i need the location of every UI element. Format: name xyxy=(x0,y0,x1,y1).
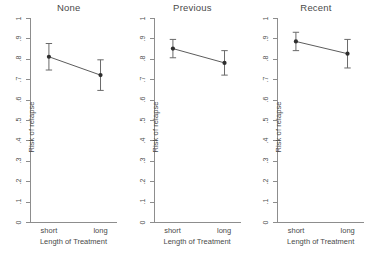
y-axis-tick-label: .2 xyxy=(262,174,269,188)
y-axis-tick-label: .5 xyxy=(262,113,269,127)
y-axis-tick-label: .8 xyxy=(138,52,145,66)
chart-panel: None0.1.2.3.4.5.6.7.8.91shortlongLength … xyxy=(0,0,124,253)
y-axis-tick-label: .3 xyxy=(15,154,22,168)
x-axis-label: Length of Treatment xyxy=(30,237,117,246)
y-axis-tick-label: .1 xyxy=(15,195,22,209)
y-axis-tick-label: .9 xyxy=(262,31,269,45)
y-axis-tick-label: 0 xyxy=(262,215,269,229)
x-axis-line xyxy=(277,222,364,223)
x-axis-label: Length of Treatment xyxy=(154,237,241,246)
y-axis-tick-label: .7 xyxy=(15,72,22,86)
y-axis-tick-label: 1 xyxy=(262,11,269,25)
y-axis-tick-label: .1 xyxy=(138,195,145,209)
connector-line xyxy=(49,57,101,75)
x-axis-label: Length of Treatment xyxy=(277,237,364,246)
y-axis-tick-label: .4 xyxy=(15,133,22,147)
y-axis-tick-label: .8 xyxy=(262,52,269,66)
series-graphic xyxy=(154,18,240,222)
y-axis-tick-label: .4 xyxy=(138,133,145,147)
data-point-marker xyxy=(47,55,51,59)
data-point-marker xyxy=(346,52,350,56)
x-axis-tick-label: short xyxy=(288,226,305,235)
plot-area: 0.1.2.3.4.5.6.7.8.91 xyxy=(154,18,240,222)
plot-area: 0.1.2.3.4.5.6.7.8.91 xyxy=(30,18,116,222)
data-point-marker xyxy=(98,73,102,77)
y-axis-tick xyxy=(26,222,30,223)
y-axis-tick-label: .5 xyxy=(15,113,22,127)
y-axis-tick-label: .7 xyxy=(138,72,145,86)
y-axis-tick-label: 0 xyxy=(15,215,22,229)
connector-line xyxy=(173,49,225,63)
y-axis-tick-label: .2 xyxy=(15,174,22,188)
plot-area: 0.1.2.3.4.5.6.7.8.91 xyxy=(277,18,363,222)
y-axis-tick-label: .8 xyxy=(15,52,22,66)
y-axis-tick-label: .9 xyxy=(138,31,145,45)
chart-panel: Recent0.1.2.3.4.5.6.7.8.91shortlongLengt… xyxy=(247,0,371,253)
y-axis-tick-label: .9 xyxy=(15,31,22,45)
x-axis-tick-label: long xyxy=(93,226,107,235)
x-axis-tick-label: long xyxy=(217,226,231,235)
y-axis-label: Risk of relapse xyxy=(151,101,160,152)
x-axis-tick-label: short xyxy=(164,226,181,235)
y-axis-tick-label: 1 xyxy=(138,11,145,25)
figure-panel-group: None0.1.2.3.4.5.6.7.8.91shortlongLength … xyxy=(0,0,371,253)
series-graphic xyxy=(30,18,116,222)
chart-panel: Previous0.1.2.3.4.5.6.7.8.91shortlongLen… xyxy=(124,0,248,253)
y-axis-tick xyxy=(150,222,154,223)
y-axis-tick-label: .6 xyxy=(262,93,269,107)
y-axis-tick-label: .4 xyxy=(262,133,269,147)
y-axis-label: Risk of relapse xyxy=(274,101,283,152)
connector-line xyxy=(296,41,348,53)
y-axis-tick-label: .1 xyxy=(262,195,269,209)
y-axis-tick-label: .3 xyxy=(138,154,145,168)
x-axis-line xyxy=(154,222,241,223)
y-axis-tick-label: .3 xyxy=(262,154,269,168)
y-axis-tick-label: .5 xyxy=(138,113,145,127)
x-axis-line xyxy=(30,222,117,223)
y-axis-tick-label: 1 xyxy=(15,11,22,25)
y-axis-tick-label: .2 xyxy=(138,174,145,188)
y-axis-tick-label: .7 xyxy=(262,72,269,86)
y-axis-tick xyxy=(273,222,277,223)
data-point-marker xyxy=(170,47,174,51)
y-axis-tick-label: .6 xyxy=(15,93,22,107)
data-point-marker xyxy=(294,39,298,43)
y-axis-label: Risk of relapse xyxy=(27,101,36,152)
data-point-marker xyxy=(222,61,226,65)
x-axis-tick-label: long xyxy=(341,226,355,235)
x-axis-tick-label: short xyxy=(41,226,58,235)
y-axis-tick-label: 0 xyxy=(138,215,145,229)
y-axis-tick-label: .6 xyxy=(138,93,145,107)
series-graphic xyxy=(277,18,363,222)
